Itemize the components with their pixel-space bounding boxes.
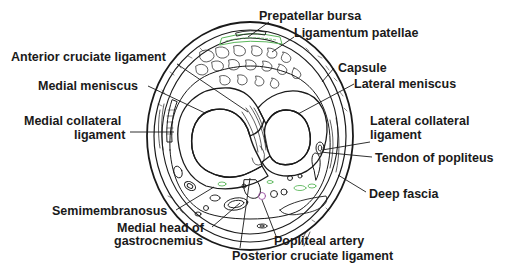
label-deep-fascia: Deep fascia [369, 187, 438, 201]
label-lateral-meniscus: Lateral meniscus [354, 77, 456, 91]
label-ligamentum-patellae: Ligamentum patellae [294, 26, 418, 40]
label-tendon-of-popliteus: Tendon of popliteus [375, 151, 494, 165]
ligamentum-patellae-shape [220, 34, 282, 45]
medial-gastrocnemius-shape [223, 196, 249, 212]
label-medial-head-gastrocnemius-line1: Medial head of [117, 221, 204, 235]
label-medial-head-gastrocnemius-line2: gastrocnemius [114, 234, 203, 248]
label-anterior-cruciate-ligament: Anterior cruciate ligament [11, 50, 166, 64]
label-prepatellar-bursa: Prepatellar bursa [259, 9, 361, 23]
label-medial-meniscus: Medial meniscus [38, 79, 138, 93]
label-lateral-collateral-ligament-line1: Lateral collateral [370, 114, 469, 128]
lateral-tibial-surface [264, 110, 310, 165]
label-medial-collateral-ligament-line1: Medial collateral [24, 114, 121, 128]
infrapatellar-fat-pad [196, 45, 301, 88]
posterior-cruciate-ligament-shape [244, 180, 261, 198]
label-lateral-collateral-ligament-line2: ligament [370, 128, 421, 142]
label-posterior-cruciate-ligament: Posterior cruciate ligament [232, 249, 393, 263]
semimembranosus-shape [183, 180, 197, 193]
label-medial-collateral-ligament-line2: ligament [74, 128, 125, 142]
label-popliteal-artery: Popliteal artery [274, 234, 364, 248]
synovial-ring [170, 66, 330, 219]
tendon-of-popliteus-shape [312, 153, 320, 180]
label-semimembranosus: Semimembranosus [52, 204, 167, 218]
medial-tibial-surface [192, 109, 262, 177]
label-capsule: Capsule [338, 61, 387, 75]
